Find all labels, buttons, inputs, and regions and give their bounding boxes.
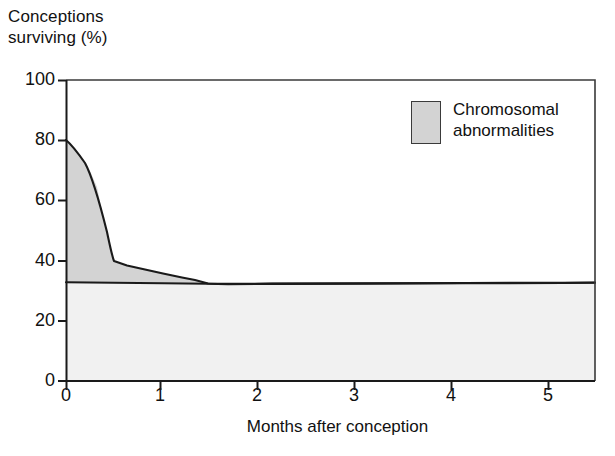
plot-area <box>0 0 615 456</box>
surviving-area-fill <box>66 282 595 381</box>
total-survival-curve <box>66 140 595 284</box>
legend-swatch-chromosomal-abnormalities <box>411 101 441 144</box>
legend-label-chromosomal-abnormalities: Chromosomal abnormalities <box>453 99 559 141</box>
legend-label-line1: Chromosomal <box>453 99 559 120</box>
chromosomal-abnormalities-area <box>66 140 595 284</box>
x-axis-label: Months after conception <box>0 417 615 437</box>
legend-label-line2: abnormalities <box>453 120 559 141</box>
chart-figure: Conceptions surviving (%) 100 80 60 40 2… <box>0 0 615 456</box>
x-axis-label-text: Months after conception <box>247 417 428 436</box>
